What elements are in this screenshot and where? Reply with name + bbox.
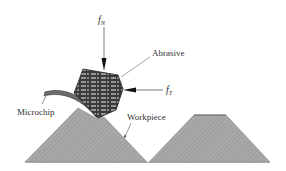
abrasive-cutting-diagram: fN fT Abrasive Microchip Workpiece	[0, 0, 286, 171]
workpiece-leader-line	[125, 123, 131, 137]
tangential-force-arrow	[123, 88, 163, 93]
microchip-leader-line	[42, 96, 46, 104]
normal-force-arrow	[102, 27, 107, 71]
arrowhead-down-icon	[102, 58, 107, 71]
abrasive-leader-line	[121, 57, 150, 77]
workpiece-label: Workpiece	[127, 112, 166, 122]
microchip-label: Microchip	[17, 107, 55, 117]
arrowhead-left-icon	[123, 88, 136, 93]
abrasive-label: Abrasive	[152, 48, 185, 58]
tangential-force-label: fT	[166, 84, 173, 96]
workpiece-right-asperity	[149, 115, 270, 162]
normal-force-label: fN	[98, 14, 106, 26]
